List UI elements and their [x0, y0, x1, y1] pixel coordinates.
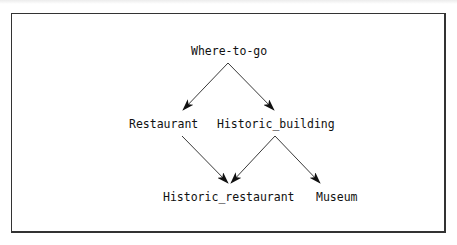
node-museum: Museum [316, 190, 358, 204]
edge-root-restaurant [183, 63, 228, 110]
edge-root-historic-building [228, 63, 274, 110]
node-where-to-go: Where-to-go [191, 44, 267, 58]
edge-historic-building-historic-restaurant [231, 136, 275, 183]
node-restaurant: Restaurant [129, 117, 198, 131]
node-historic-building: Historic_building [217, 117, 335, 131]
edge-restaurant-historic-restaurant [182, 136, 228, 183]
edge-historic-building-museum [275, 136, 320, 183]
node-historic-restaurant: Historic_restaurant [163, 190, 295, 204]
